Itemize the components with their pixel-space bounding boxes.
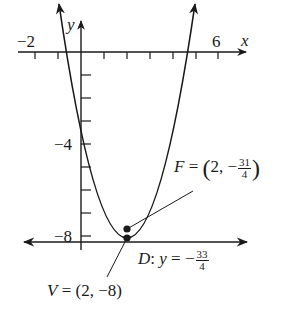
x-tick-label-6: 6 — [212, 33, 221, 50]
parabola-diagram: y x −2 6 −4 −8 F = (2, −314) D: y = −334… — [0, 0, 289, 315]
directrix-label: D: y = −334 — [138, 249, 210, 272]
focus-label: F = (2, −314) — [174, 156, 260, 180]
x-axis-label: x — [241, 32, 249, 49]
x-tick-label-neg2: −2 — [17, 33, 35, 50]
y-axis-label: y — [67, 16, 75, 33]
x-axis-ticks — [35, 52, 218, 59]
vertex-leader-line — [107, 238, 127, 277]
y-tick-label-neg4: −4 — [54, 136, 72, 153]
focus-fraction: 314 — [238, 157, 251, 180]
vertex-label: V = (2, −8) — [47, 282, 122, 299]
focus-leader-line — [127, 191, 193, 229]
focus-point — [123, 225, 130, 232]
y-tick-label-neg8: −8 — [54, 228, 72, 245]
vertex-point — [123, 234, 130, 241]
parabola-curve — [59, 4, 195, 238]
directrix-fraction: 334 — [196, 249, 209, 272]
